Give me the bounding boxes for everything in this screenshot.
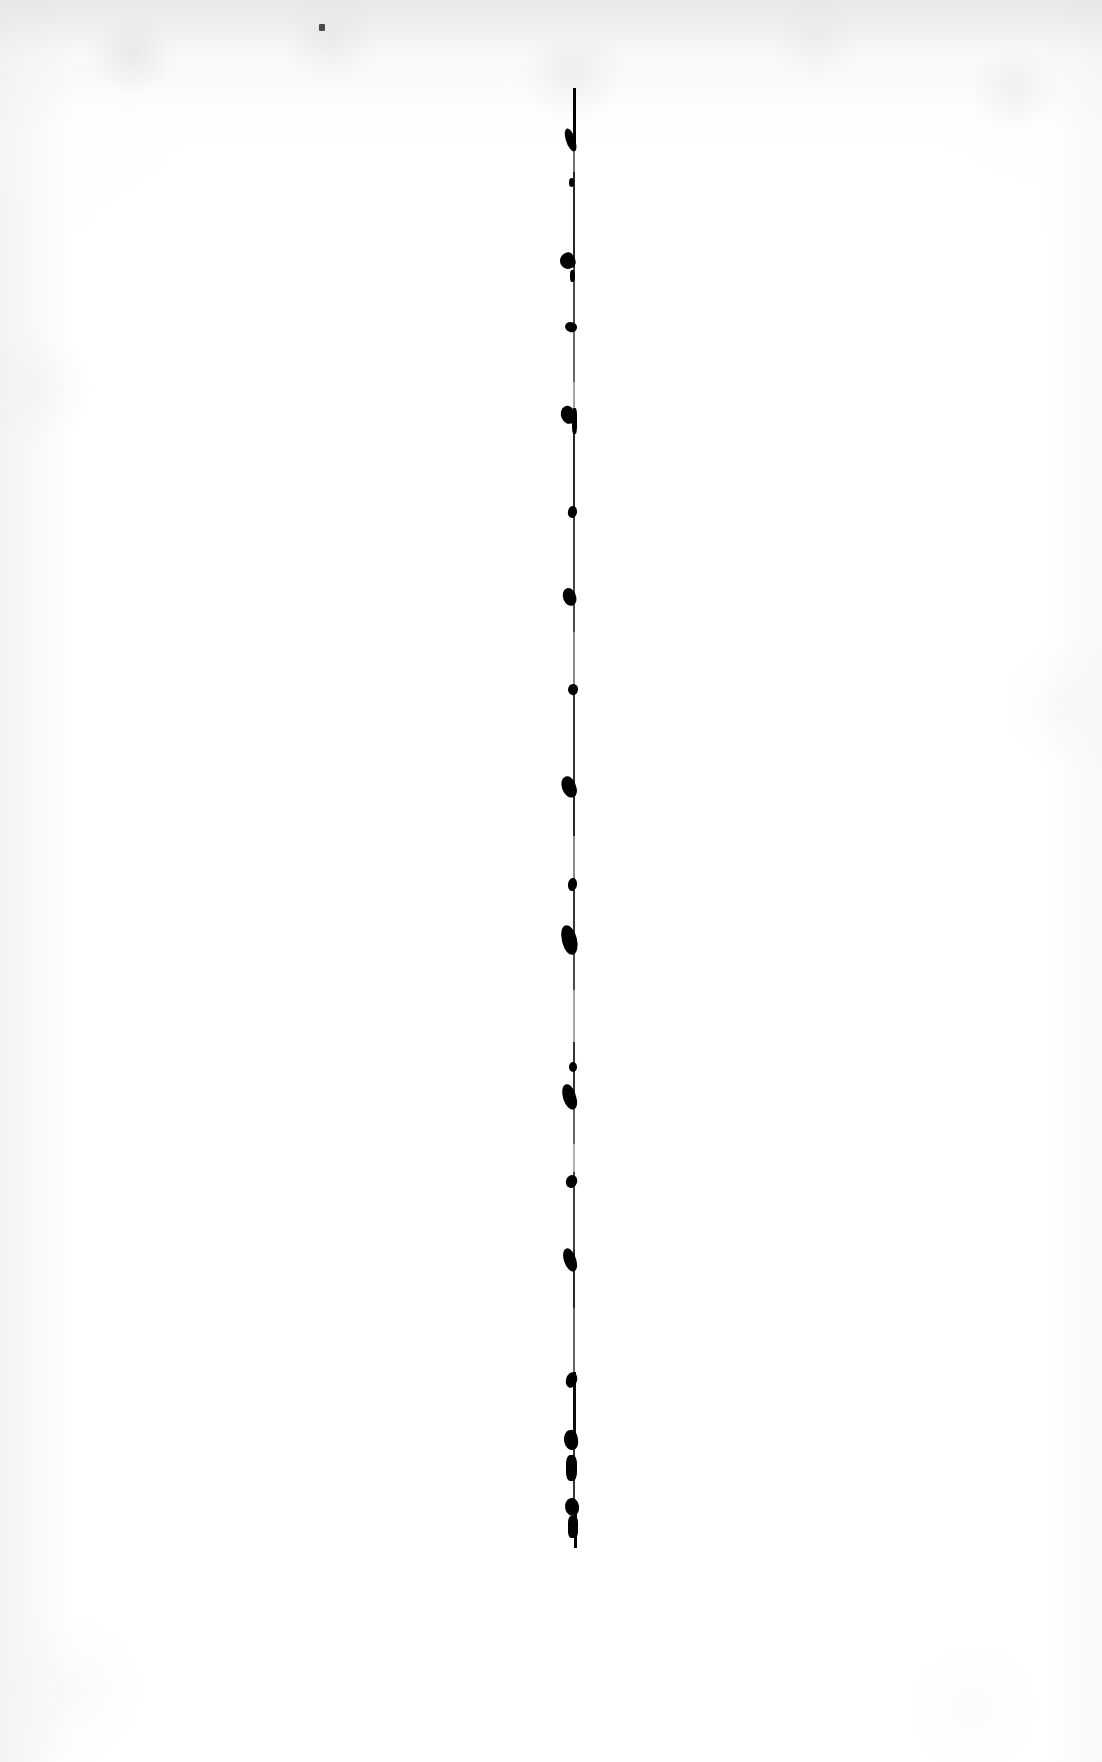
scanned-page	[0, 0, 1102, 1762]
page-text	[0, 0, 1102, 1762]
